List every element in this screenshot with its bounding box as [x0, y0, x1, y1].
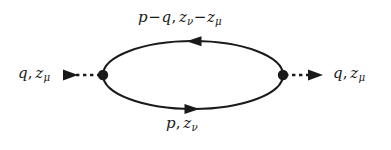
top-label-coord-subscript2: μ: [215, 16, 222, 27]
bottom-loop-arrowhead-icon: [185, 104, 200, 114]
top-label-comma: ,: [171, 8, 178, 26]
top-label-coord-operator: −: [193, 8, 207, 26]
top-label-coord2: z: [207, 8, 215, 26]
outgoing-external-label: q,zμ: [333, 66, 365, 83]
top-loop-arrowhead-icon: [187, 36, 202, 46]
loop-lower-propagator: [103, 75, 283, 109]
left-vertex-dot: [98, 70, 108, 80]
bottom-label-momentum: p: [166, 114, 176, 132]
top-label-coord: z: [179, 8, 187, 26]
bottom-propagator-label: p,zν: [166, 116, 198, 133]
left-label-coord-subscript: μ: [43, 72, 50, 83]
top-label-momentum2: q: [162, 8, 172, 26]
incoming-arrowhead-icon: [63, 70, 78, 81]
right-vertex-dot: [278, 70, 288, 80]
feynman-diagram-figure: p−q,zν−zμ p,zν q,zμ q,zμ: [0, 0, 391, 150]
incoming-external-label: q,zμ: [18, 66, 50, 83]
outgoing-arrowhead-icon: [308, 70, 323, 81]
right-label-momentum: q: [333, 64, 343, 82]
top-label-momentum-operator: −: [148, 8, 162, 26]
right-label-coord-subscript: μ: [358, 72, 365, 83]
top-label-momentum: p: [138, 8, 148, 26]
loop-upper-propagator: [103, 41, 283, 75]
bottom-label-coord-subscript: ν: [191, 122, 197, 133]
left-label-momentum: q: [18, 64, 28, 82]
top-propagator-label: p−q,zν−zμ: [138, 10, 222, 27]
